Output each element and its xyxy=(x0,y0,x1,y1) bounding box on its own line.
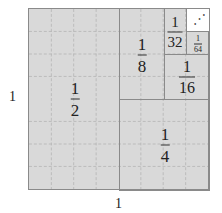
fraction-eighth: 18 xyxy=(138,36,147,75)
fraction-sixteenth: 116 xyxy=(179,59,195,96)
side-label-left: 1 xyxy=(9,89,16,105)
fraction-half: 12 xyxy=(71,80,80,119)
fraction-thirtysecond: 132 xyxy=(168,15,183,50)
remainder-square: ⋰ xyxy=(186,8,210,32)
ellipsis-icon: ⋰ xyxy=(193,11,206,27)
unit-square: ⋰ 12 14 18 116 132 164 xyxy=(28,8,209,190)
fraction-quarter: 14 xyxy=(161,126,170,165)
fraction-sixtyfourth: 164 xyxy=(194,35,202,54)
side-label-bottom: 1 xyxy=(115,196,122,212)
